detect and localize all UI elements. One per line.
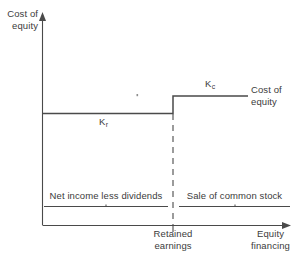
kc-label-main: K [205, 78, 211, 89]
y-axis-arrowhead [39, 12, 46, 21]
y-axis-title-line1: Cost of [7, 8, 38, 19]
cost-of-equity-callout: Cost of equity [251, 84, 303, 107]
retained-earnings-label-line1: Retained [154, 228, 193, 239]
left-bracket-caption: Net income less dividends [44, 190, 168, 202]
x-axis-title: Equity financing [238, 228, 303, 251]
right-bracket-caption: Sale of common stock [179, 190, 290, 202]
retained-earnings-label: Retained earnings [133, 228, 213, 251]
kr-label-main: K [99, 116, 105, 127]
cost-of-equity-callout-line2: equity [251, 96, 277, 107]
x-axis-title-line1: Equity [257, 228, 284, 239]
y-axis-title-line2: equity [12, 20, 38, 31]
kc-curve-label: Kc [205, 78, 215, 91]
cost-of-equity-callout-line1: Cost of [251, 84, 282, 95]
kr-label-subscript: r [106, 121, 108, 128]
kr-curve-label: Kr [99, 116, 108, 129]
chart-canvas [0, 0, 303, 254]
kc-label-subscript: c [212, 83, 216, 90]
y-axis-title: Cost of equity [0, 8, 38, 31]
retained-earnings-label-line2: earnings [154, 240, 191, 251]
scan-speck [137, 94, 139, 96]
cost-of-equity-step-chart: Cost of equity Kr Kc Cost of equity Net … [0, 0, 303, 254]
x-axis-title-line2: financing [251, 240, 290, 251]
cost-of-equity-step-curve [43, 96, 248, 114]
